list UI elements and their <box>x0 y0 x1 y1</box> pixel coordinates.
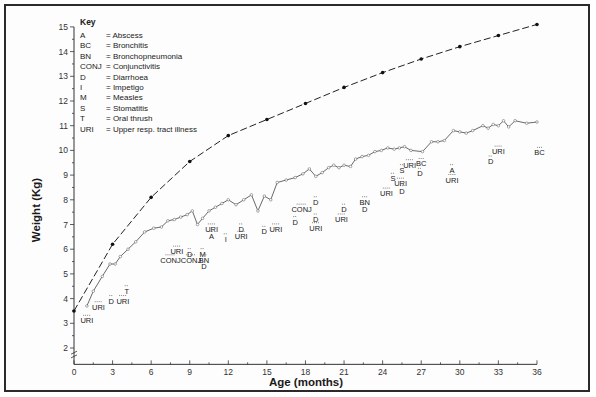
x-tick-label: 12 <box>224 367 234 377</box>
y-axis-title: Weight (Kg) <box>30 178 42 242</box>
y-tick-label: 15 <box>59 22 69 32</box>
child-weight-point <box>302 173 305 176</box>
reference-point <box>497 34 501 38</box>
reference-point <box>111 242 115 246</box>
illness-annotation: D <box>488 157 494 166</box>
legend-code: BC <box>80 41 91 50</box>
child-weight-point <box>507 126 510 129</box>
legend-code: T <box>80 114 85 123</box>
x-tick-label: 30 <box>455 367 465 377</box>
child-weight-point <box>242 199 245 202</box>
illness-annotation: URI <box>235 232 248 241</box>
child-weight-point <box>354 158 357 161</box>
reference-point <box>149 196 153 200</box>
child-weight-point <box>437 140 440 143</box>
legend-meaning: = Bronchopneumonia <box>106 52 183 61</box>
child-weight-point <box>235 203 238 206</box>
child-weight-point <box>101 275 104 278</box>
legend-meaning: = Diarrhoea <box>106 73 149 82</box>
y-tick-label: 8 <box>63 195 68 205</box>
child-weight-point <box>119 255 122 258</box>
x-tick-label: 6 <box>149 367 154 377</box>
child-weight-point <box>86 305 89 308</box>
child-weight-point <box>160 226 163 229</box>
child-weight-point <box>393 148 396 151</box>
child-weight-point <box>502 119 505 122</box>
reference-point <box>458 45 462 49</box>
child-weight-point <box>167 219 170 222</box>
x-axis-title: Age (months) <box>269 376 343 388</box>
child-weight-point <box>410 149 413 152</box>
child-weight-point <box>250 194 253 197</box>
reference-point <box>72 309 76 313</box>
x-tick-label: 0 <box>72 367 77 377</box>
illness-annotation: URI <box>335 215 348 224</box>
child-weight-point <box>338 166 341 169</box>
illness-annotation: D <box>341 205 347 214</box>
legend-code: I <box>80 83 82 92</box>
illness-annotation: URI <box>269 225 282 234</box>
child-weight-point <box>208 210 211 213</box>
child-weight-point <box>386 147 389 150</box>
child-weight-point <box>430 140 433 143</box>
child-weight-point <box>349 165 352 168</box>
illness-annotation: A <box>209 232 214 241</box>
illness-annotation: D <box>313 198 319 207</box>
illness-annotation: BC <box>534 148 545 157</box>
illness-annotation: URI <box>80 316 93 325</box>
child-weight-point <box>374 150 377 153</box>
child-weight-point <box>421 150 424 153</box>
y-tick-label: 11 <box>59 121 68 131</box>
y-tick-label: 6 <box>63 244 68 254</box>
child-weight-point <box>465 132 468 135</box>
child-weight-point <box>327 166 330 169</box>
illness-annotation: T <box>124 287 129 296</box>
legend-meaning: = Measles <box>106 93 143 102</box>
y-tick-label: 3 <box>63 318 68 328</box>
child-weight-point <box>471 129 474 132</box>
illness-annotation: D <box>292 218 298 227</box>
reference-point <box>535 23 539 27</box>
illness-annotation: URI <box>492 147 505 156</box>
illness-annotation: URI <box>446 176 459 185</box>
reference-point <box>381 71 385 75</box>
legend-meaning: = Stomatitis <box>106 104 148 113</box>
child-weight-point <box>487 127 490 130</box>
x-tick-label: 36 <box>532 367 542 377</box>
y-tick-label: 5 <box>63 269 68 279</box>
legend-code: BN <box>80 52 91 61</box>
weight-growth-chart: 23456789101112131415 0369121518212427303… <box>0 0 596 397</box>
legend-code: M <box>80 93 87 102</box>
child-weight-point <box>221 202 224 205</box>
y-tick-label: 10 <box>59 145 69 155</box>
legend-meaning: = Oral thrush <box>106 114 152 123</box>
x-tick-label: 33 <box>494 367 504 377</box>
x-tick-label: 3 <box>110 367 115 377</box>
legend-meaning: = Upper resp. tract illness <box>106 125 197 134</box>
child-weight-series <box>86 119 539 307</box>
illness-annotation: URI <box>92 303 105 312</box>
child-weight-point <box>257 210 260 213</box>
child-weight-point <box>285 179 288 182</box>
child-weight-point <box>143 231 146 234</box>
child-weight-point <box>492 123 495 126</box>
child-weight-point <box>536 121 539 124</box>
reference-point <box>227 134 231 138</box>
child-weight-point <box>314 175 317 178</box>
child-weight-point <box>497 124 500 127</box>
y-tick-label: 7 <box>63 220 68 230</box>
child-weight-point <box>321 171 324 174</box>
child-weight-point <box>196 223 199 226</box>
child-weight-point <box>525 122 528 125</box>
child-weight-point <box>214 206 217 209</box>
legend-meaning: = Abscess <box>106 31 143 40</box>
x-tick-label: 24 <box>378 367 388 377</box>
illness-annotation: URI <box>380 189 393 198</box>
child-weight-point <box>343 164 346 167</box>
child-weight-point <box>403 145 406 148</box>
child-weight-point <box>443 139 446 142</box>
y-axis-tick-labels: 23456789101112131415 <box>59 22 69 353</box>
illness-annotation: BC <box>416 159 427 168</box>
illness-annotation: D <box>417 169 423 178</box>
legend-code: D <box>80 73 86 82</box>
